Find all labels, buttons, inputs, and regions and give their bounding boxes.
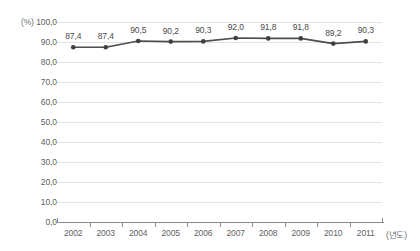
data-point-marker [266, 36, 271, 41]
data-point-label: 87,4 [98, 31, 114, 41]
line-chart: (%) (년도) 0,010,020,030,040,050,060,070,0… [0, 0, 420, 251]
data-point-marker [298, 36, 303, 41]
data-point-label: 87,4 [65, 31, 81, 41]
data-point-marker [103, 45, 108, 50]
data-point-marker [168, 39, 173, 44]
data-point-label: 91,8 [260, 22, 276, 32]
data-point-marker [136, 39, 141, 44]
series-polyline [73, 38, 366, 47]
data-point-label: 90,3 [358, 25, 374, 35]
data-point-marker [233, 36, 238, 41]
data-point-label: 90,5 [130, 25, 146, 35]
data-point-marker [201, 39, 206, 44]
data-point-label: 92,0 [228, 22, 244, 32]
data-point-label: 91,8 [293, 22, 309, 32]
data-point-label: 90,3 [195, 25, 211, 35]
data-point-label: 90,2 [163, 26, 179, 36]
data-point-marker [71, 45, 76, 50]
data-point-marker [331, 41, 336, 46]
series-line [0, 0, 420, 251]
data-point-label: 89,2 [325, 28, 341, 38]
data-point-marker [363, 39, 368, 44]
